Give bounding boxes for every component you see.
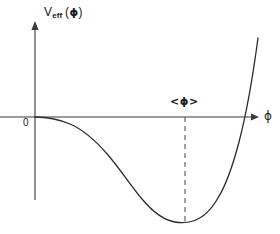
y-axis-label: Veff(ϕ) [44,6,83,20]
y-axis-label-subscript: eff [52,11,62,20]
y-axis-label-paren-close: ) [78,5,82,19]
effective-potential-curve [35,38,258,223]
effective-potential-figure: Veff(ϕ) ϕ 0 <ϕ> [0,0,280,234]
vev-label: <ϕ> [170,96,199,107]
origin-label: 0 [23,118,29,128]
y-axis [31,21,38,200]
plot-canvas [0,0,280,234]
x-axis-label: ϕ [264,110,272,122]
